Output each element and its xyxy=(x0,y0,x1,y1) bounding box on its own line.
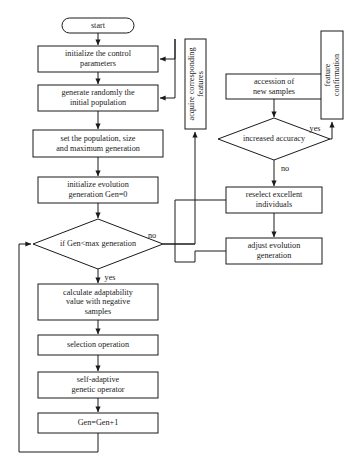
node-feature-confirmation: feature confirmation xyxy=(321,31,343,119)
genetic-operator-label-line2: genetic operator xyxy=(72,385,125,394)
node-set-population-size-max-generation: set the population, size and maximum gen… xyxy=(33,130,163,157)
edge-label-gen-no: no xyxy=(148,231,156,240)
generate-random-label-line2: initial population xyxy=(70,98,126,107)
edge-adjust-evolution-to-trunk xyxy=(175,200,226,262)
genetic-operator-label-line1: self-adaptive xyxy=(77,375,120,384)
acquire-features-label-line1: acquire corresponding xyxy=(187,48,196,121)
accuracy-decision-label: increased accuracy xyxy=(243,134,306,143)
gen-increment-label: Gen=Gen+1 xyxy=(78,418,119,427)
reselect-individuals-label-line1: reselect excellent xyxy=(246,190,303,199)
feature-confirmation-label-line2: confirmation xyxy=(332,54,341,96)
feature-confirmation-label-line1: feature xyxy=(323,63,332,86)
set-population-label-line1: set the population, size xyxy=(60,134,135,143)
selection-operation-label: selection operation xyxy=(67,340,129,349)
initialize-evolution-label-line2: generation Gen=0 xyxy=(69,190,128,199)
accession-samples-label-line1: accession of xyxy=(254,77,295,86)
node-initialize-evolution-generation: initialize evolution generation Gen=0 xyxy=(38,177,158,203)
acquire-features-label-line2: features xyxy=(196,71,205,97)
node-self-adaptive-genetic-operator: self-adaptive genetic operator xyxy=(38,372,158,398)
calculate-adaptability-label-line1: calculate adaptability xyxy=(63,288,134,297)
node-accession-of-new-samples: accession of new samples xyxy=(226,74,322,99)
node-reselect-excellent-individuals: reselect excellent individuals xyxy=(226,187,322,213)
accession-samples-label-line2: new samples xyxy=(253,87,295,96)
node-gen-max-generation-decision: if Gen<max generation xyxy=(33,219,163,269)
gen-decision-label: if Gen<max generation xyxy=(60,239,136,248)
node-generate-random-initial-population: generate randomly the initial population xyxy=(38,85,158,111)
start-label: start xyxy=(91,21,106,30)
edge-label-accuracy-no: no xyxy=(281,164,289,173)
node-acquire-corresponding-features: acquire corresponding features xyxy=(185,39,206,129)
calculate-adaptability-label-line2: value with negative xyxy=(66,297,130,306)
edge-accuracy-yes-to-feature-confirmation xyxy=(330,122,332,139)
node-gen-increment: Gen=Gen+1 xyxy=(38,413,158,433)
node-initialize-control-parameters: initialize the control parameters xyxy=(38,46,158,72)
reselect-individuals-label-line2: individuals xyxy=(256,200,292,209)
set-population-label-line2: and maximum generation xyxy=(56,144,140,153)
initialize-control-parameters-label-line1: initialize the control xyxy=(65,49,132,58)
node-adjust-evolution-generation: adjust evolution generation xyxy=(226,238,322,264)
adjust-evolution-label-line1: adjust evolution xyxy=(248,241,301,250)
edge-acquire-features-to-generate-random xyxy=(160,39,175,98)
node-selection-operation: selection operation xyxy=(38,335,158,355)
node-start: start xyxy=(62,18,134,33)
initialize-control-parameters-label-line2: parameters xyxy=(80,59,116,68)
flowchart-diagram: start initialize the control parameters … xyxy=(0,0,362,469)
node-calculate-adaptability: calculate adaptability value with negati… xyxy=(38,284,158,320)
edge-no-branch-to-acquire-features xyxy=(175,132,195,244)
generate-random-label-line1: generate randomly the xyxy=(61,88,135,97)
flowchart-canvas: start initialize the control parameters … xyxy=(0,0,362,469)
edge-label-gen-yes: yes xyxy=(105,273,116,282)
initialize-evolution-label-line1: initialize evolution xyxy=(67,180,129,189)
calculate-adaptability-label-line3: samples xyxy=(85,307,111,316)
edge-acquire-features-to-init-control xyxy=(160,39,175,59)
edge-label-accuracy-yes: yes xyxy=(310,124,321,133)
adjust-evolution-label-line2: generation xyxy=(257,251,292,260)
